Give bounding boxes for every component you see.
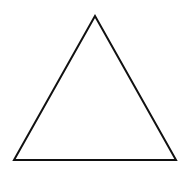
diagram-canvas (0, 0, 186, 179)
triangle-shape (14, 16, 176, 160)
triangle-figure (0, 0, 186, 179)
